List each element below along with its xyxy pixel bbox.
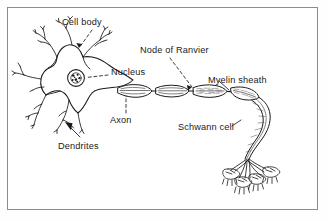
- label-cell-body: Cell body: [62, 17, 102, 27]
- dendrite-tree: [12, 17, 112, 134]
- label-axon: Axon: [110, 115, 132, 125]
- label-dendrites: Dendrites: [58, 141, 99, 151]
- neuron-illustration: [0, 0, 328, 221]
- leader-nucleus: [86, 75, 108, 78]
- label-myelin-sheath: Myelin sheath: [208, 75, 267, 85]
- nucleus-circle: [68, 70, 85, 87]
- leader-node-of-ranvier: [170, 58, 192, 87]
- distal-axon: [245, 97, 270, 159]
- label-nucleus: Nucleus: [111, 67, 145, 77]
- label-node-of-ranvier: Node of Ranvier: [140, 45, 209, 55]
- terminal-branches: [231, 159, 266, 178]
- end-plates: [223, 167, 281, 194]
- soma: [41, 45, 133, 113]
- label-schwann-cell: Schwann cell: [178, 122, 234, 132]
- diagram-page: Cell body Nucleus Node of Ranvier Myelin…: [0, 0, 328, 221]
